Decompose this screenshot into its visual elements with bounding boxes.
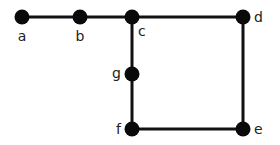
node-f: [125, 122, 140, 137]
graph-diagram: abcdgfe: [0, 0, 280, 145]
node-d: [236, 10, 251, 25]
node-g: [125, 67, 140, 82]
node-label-d: d: [254, 9, 263, 25]
node-label-b: b: [76, 28, 85, 44]
node-a: [15, 10, 30, 25]
node-label-c: c: [138, 23, 146, 39]
node-label-g: g: [112, 65, 121, 81]
labels-layer: abcdgfe: [18, 9, 263, 137]
node-label-a: a: [18, 28, 27, 44]
node-label-f: f: [116, 121, 122, 137]
node-b: [73, 10, 88, 25]
node-label-e: e: [254, 121, 263, 137]
node-e: [236, 122, 251, 137]
